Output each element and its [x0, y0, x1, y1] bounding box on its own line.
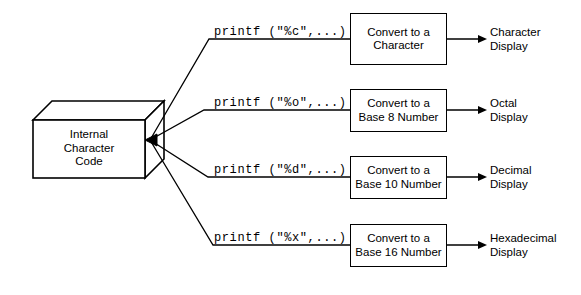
connector-line-row-1 — [150, 39, 350, 140]
convert-box-row-2: Convert to a Base 8 Number — [350, 89, 447, 132]
source-box-label: Internal Character Code — [33, 128, 145, 169]
printf-call-row-1: printf ("%c",...) — [214, 25, 347, 39]
display-label-row-1: Character Display — [490, 26, 541, 53]
convert-box-row-1: Convert to a Character — [350, 13, 447, 65]
output-arrowhead-row-2 — [478, 106, 487, 114]
convert-box-row-4: Convert to a Base 16 Number — [350, 224, 447, 267]
connector-line-row-2 — [150, 110, 350, 140]
display-label-row-3: Decimal Display — [490, 164, 532, 191]
display-label-row-2: Octal Display — [490, 97, 528, 124]
output-arrowhead-row-1 — [478, 35, 487, 43]
printf-call-row-4: printf ("%x",...) — [214, 231, 347, 245]
printf-call-row-3: printf ("%d",...) — [214, 163, 347, 177]
source-box-top-face — [33, 101, 164, 120]
display-label-row-4: Hexadecimal Display — [490, 232, 556, 259]
printf-conversion-diagram: Internal Character Code printf ("%c",...… — [0, 0, 581, 295]
printf-call-row-2: printf ("%o",...) — [214, 96, 347, 110]
convert-box-row-3: Convert to a Base 10 Number — [350, 156, 447, 199]
output-arrowhead-row-4 — [478, 241, 487, 249]
connector-line-row-4 — [150, 140, 350, 245]
output-arrowhead-row-3 — [478, 173, 487, 181]
